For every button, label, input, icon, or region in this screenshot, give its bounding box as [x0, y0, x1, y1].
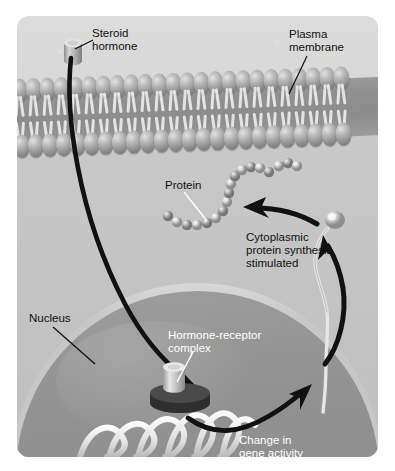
hormone-receptor-complex	[150, 362, 210, 413]
protein-bead-chain	[163, 158, 302, 230]
diagram-panel: Steroid hormone Plasma membrane Protein …	[17, 16, 378, 457]
dna-helix	[80, 413, 255, 457]
label-change-in-gene-activity: Change in gene activity	[239, 434, 303, 457]
protein-synthesis-arrow	[243, 197, 317, 224]
steroid-hormone-diagram: Steroid hormone Plasma membrane Protein …	[0, 0, 395, 471]
label-cytoplasmic-protein-synthesis: Cytoplasmic protein synthesis stimulated	[246, 231, 332, 270]
steroid-hormone-glyph	[64, 39, 82, 65]
label-protein: Protein	[165, 179, 201, 192]
label-plasma-membrane: Plasma membrane	[289, 28, 344, 54]
plasma-membrane-leader	[289, 56, 307, 94]
protein-leader	[184, 192, 207, 221]
label-nucleus: Nucleus	[29, 312, 71, 325]
label-hormone-receptor-complex: Hormone-receptor complex	[168, 329, 261, 355]
label-steroid-hormone: Steroid hormone	[92, 27, 137, 53]
nucleus-leader	[53, 327, 95, 364]
